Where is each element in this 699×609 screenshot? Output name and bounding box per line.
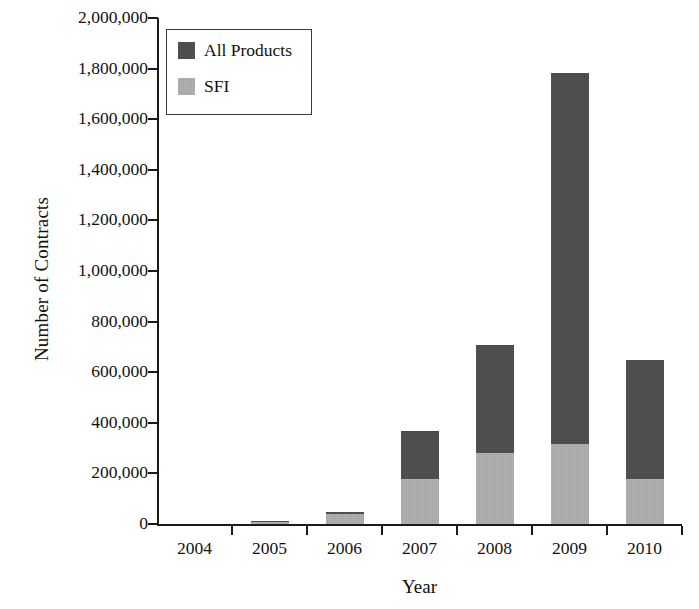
y-axis-tick (148, 422, 158, 424)
bar-segment-all-products[interactable] (476, 345, 514, 453)
y-axis-tick (148, 270, 158, 272)
y-axis-tick-label: 1,200,000 (8, 212, 148, 230)
y-axis-tick (148, 219, 158, 221)
legend-item-all-products[interactable]: All Products (178, 42, 292, 60)
legend-label-sfi: SFI (204, 78, 229, 96)
legend-label-all-products: All Products (204, 42, 292, 60)
legend-swatch-all-products-icon (178, 42, 195, 59)
y-axis-line (157, 18, 159, 526)
y-axis-tick-label: 1,400,000 (8, 161, 148, 179)
legend-swatch-sfi-icon (178, 78, 195, 95)
y-axis-tick (148, 371, 158, 373)
x-axis-line (157, 524, 682, 526)
chart-legend: All Products SFI (166, 29, 312, 115)
y-axis-tick (148, 68, 158, 70)
y-axis-tick-label: 2,000,000 (8, 9, 148, 27)
bar-segment-sfi[interactable] (251, 522, 289, 524)
y-axis-tick (148, 472, 158, 474)
y-axis-tick-label: 600,000 (8, 363, 148, 381)
bar-stack[interactable] (626, 360, 664, 524)
bar-segment-sfi[interactable] (326, 514, 364, 524)
x-axis-tick (606, 526, 608, 535)
bar-segment-all-products[interactable] (401, 431, 439, 479)
x-axis-tick (231, 526, 233, 535)
bar-stack[interactable] (326, 512, 364, 524)
x-axis-tick (681, 526, 683, 535)
y-axis-tick (148, 169, 158, 171)
bar-segment-all-products[interactable] (551, 73, 589, 444)
y-axis-tick-label: 1,000,000 (8, 262, 148, 280)
bar-segment-sfi[interactable] (551, 444, 589, 524)
bar-stack[interactable] (251, 521, 289, 524)
x-axis-tick (381, 526, 383, 535)
x-axis-tick (456, 526, 458, 535)
bar-stack[interactable] (401, 431, 439, 524)
x-axis-tick (306, 526, 308, 535)
legend-item-sfi[interactable]: SFI (178, 78, 229, 96)
y-axis-tick (148, 17, 158, 19)
x-axis-title: Year (157, 576, 682, 598)
y-axis-tick (148, 321, 158, 323)
y-axis-tick (148, 118, 158, 120)
bar-segment-sfi[interactable] (626, 479, 664, 524)
chart-container: Number of Contracts 0200,000400,000600,0… (0, 0, 699, 609)
y-axis-tick-label: 200,000 (8, 465, 148, 483)
y-axis-tick-label: 800,000 (8, 313, 148, 331)
y-axis-tick (148, 523, 158, 525)
bar-segment-sfi[interactable] (476, 453, 514, 524)
y-axis-tick-label: 1,600,000 (8, 110, 148, 128)
bar-stack[interactable] (551, 73, 589, 524)
bar-stack[interactable] (476, 345, 514, 524)
bar-segment-sfi[interactable] (401, 479, 439, 524)
y-axis-tick-label: 0 (8, 515, 148, 533)
bar-segment-all-products[interactable] (626, 360, 664, 479)
y-axis-tick-label: 400,000 (8, 414, 148, 432)
x-axis-tick (531, 526, 533, 535)
y-axis-tick-label: 1,800,000 (8, 60, 148, 78)
x-axis-tick-label: 2010 (600, 538, 690, 559)
